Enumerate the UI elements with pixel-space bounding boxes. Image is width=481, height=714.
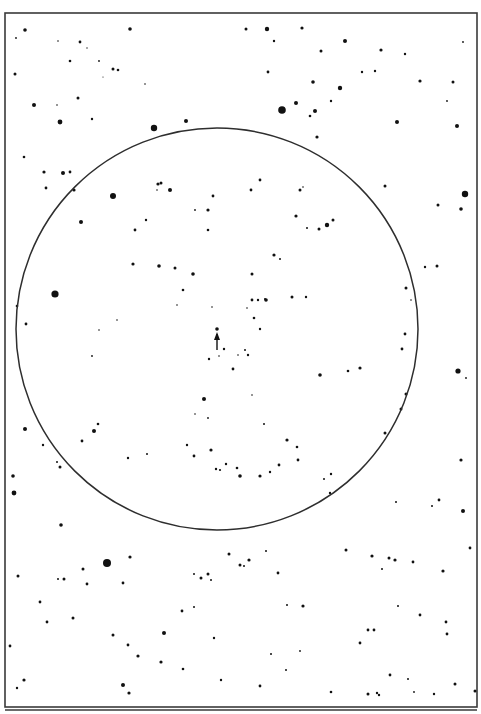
star [436, 265, 439, 268]
star [277, 572, 280, 575]
star [251, 273, 254, 276]
star [237, 354, 239, 356]
star [86, 583, 89, 586]
star [162, 631, 166, 635]
star [39, 601, 42, 604]
star [455, 368, 460, 373]
star [69, 171, 72, 174]
star [265, 550, 267, 552]
star [244, 349, 246, 351]
star [332, 219, 335, 222]
star [265, 27, 269, 31]
star [51, 290, 58, 297]
star [338, 86, 342, 90]
star [301, 604, 304, 607]
star [251, 394, 253, 396]
star [302, 186, 304, 188]
star [182, 289, 185, 292]
star [23, 28, 27, 32]
star [145, 219, 147, 221]
star [202, 397, 206, 401]
star [305, 296, 307, 298]
star [469, 547, 472, 550]
star [193, 606, 195, 608]
star [279, 258, 281, 260]
star [207, 417, 209, 419]
star [116, 319, 118, 321]
star [194, 413, 196, 415]
star [294, 101, 298, 105]
star [225, 463, 227, 465]
star [212, 195, 215, 198]
star [91, 355, 93, 357]
star [193, 573, 195, 575]
star [309, 115, 312, 118]
star [424, 266, 426, 268]
star [69, 60, 72, 63]
star [215, 468, 217, 470]
star [207, 573, 210, 576]
star [208, 358, 210, 360]
star [157, 264, 161, 268]
star [446, 100, 448, 102]
star [286, 604, 288, 606]
star [220, 679, 222, 681]
star [330, 473, 332, 475]
star [121, 683, 125, 687]
star [461, 509, 465, 513]
star [247, 558, 250, 561]
star [42, 170, 45, 173]
star [278, 464, 281, 467]
star [184, 119, 188, 123]
star [134, 229, 137, 232]
star [103, 559, 111, 567]
star [59, 523, 63, 527]
star [263, 423, 265, 425]
star [151, 125, 157, 131]
star [452, 81, 455, 84]
star [223, 348, 225, 350]
star [186, 444, 188, 446]
star [294, 214, 297, 217]
star [236, 467, 239, 470]
star [156, 182, 159, 185]
star [102, 76, 103, 77]
star [12, 491, 17, 496]
star [9, 645, 12, 648]
star [347, 370, 350, 373]
star [112, 634, 115, 637]
star [181, 610, 184, 613]
star [194, 209, 196, 211]
star [32, 103, 36, 107]
star [359, 642, 362, 645]
star [259, 328, 261, 330]
star [122, 582, 125, 585]
star [345, 549, 348, 552]
star [272, 253, 275, 256]
star [318, 373, 322, 377]
star [200, 577, 203, 580]
star [56, 104, 58, 106]
star [395, 120, 399, 124]
star [431, 505, 433, 507]
star [388, 557, 391, 560]
star [330, 691, 333, 694]
star [63, 578, 66, 581]
star [97, 423, 100, 426]
star [156, 189, 158, 191]
star [384, 432, 387, 435]
star [127, 691, 130, 694]
star [315, 135, 318, 138]
star [98, 329, 100, 331]
star [367, 693, 370, 696]
star [117, 69, 120, 72]
chart-frame [5, 13, 477, 707]
star [23, 427, 27, 431]
star [384, 185, 387, 188]
star [462, 41, 464, 43]
star [79, 220, 83, 224]
star [46, 621, 49, 624]
star [404, 333, 407, 336]
star [191, 272, 195, 276]
star [370, 554, 373, 557]
